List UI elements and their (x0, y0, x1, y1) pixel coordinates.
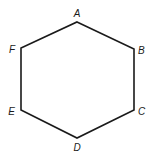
hexagon-diagram: A B C D E F (0, 0, 155, 158)
vertex-label-c: C (138, 106, 146, 117)
vertex-label-f: F (9, 44, 16, 55)
hexagon-outline (21, 22, 134, 138)
vertex-label-b: B (138, 45, 145, 56)
vertex-label-d: D (73, 142, 80, 153)
vertex-label-e: E (8, 106, 15, 117)
vertex-label-a: A (73, 8, 81, 19)
